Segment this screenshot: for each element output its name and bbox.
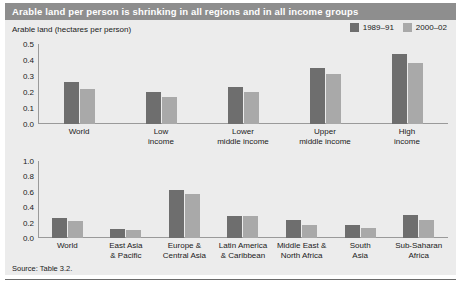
bar-group (202, 44, 284, 124)
legend-label-2000-02: 2000–02 (416, 23, 447, 32)
bar-2000-02 (244, 92, 259, 124)
y-axis-tick: 0.5 (23, 40, 34, 49)
page-title: Arable land per person is shrinking in a… (5, 6, 358, 17)
bar-group (331, 161, 390, 238)
bar-group (38, 161, 97, 238)
bar-2000-02 (162, 97, 177, 124)
legend-swatch-2000-02 (403, 23, 412, 32)
bar-1989-91 (228, 87, 243, 124)
bar-1989-91 (110, 229, 125, 238)
bar-1989-91 (227, 216, 242, 238)
y-axis-tick: 0.2 (23, 88, 34, 97)
bar-1989-91 (392, 54, 407, 124)
bar-2000-02 (185, 194, 200, 238)
bar-1989-91 (146, 92, 161, 124)
bar-group (284, 44, 366, 124)
legend: 1989–91 2000–02 (350, 23, 447, 32)
bar-1989-91 (345, 225, 360, 238)
bar-group (366, 44, 448, 124)
chart-income-groups: 0.00.10.20.30.40.5WorldLowincomeLowermid… (38, 44, 448, 124)
bar-1989-91 (169, 190, 184, 238)
y-axis-tick: 0.8 (23, 172, 34, 181)
bar-2000-02 (126, 230, 141, 238)
y-axis-tick: 0.6 (23, 187, 34, 196)
bar-group (120, 44, 202, 124)
chart-regions: 0.00.20.40.60.81.0WorldEast Asia& Pacifi… (38, 161, 448, 238)
bar-2000-02 (408, 63, 423, 124)
bar-2000-02 (68, 221, 83, 238)
bar-2000-02 (80, 89, 95, 124)
bar-group (97, 161, 156, 238)
y-axis-tick: 1.0 (23, 157, 34, 166)
bar-2000-02 (361, 228, 376, 238)
bar-2000-02 (419, 220, 434, 238)
source-note: Source: Table 3.2. (12, 264, 72, 273)
y-axis-tick: 0.3 (23, 72, 34, 81)
y-axis-tick: 0.4 (23, 56, 34, 65)
legend-item-2000-02: 2000–02 (403, 23, 447, 32)
bar-1989-91 (286, 220, 301, 238)
bar-group (389, 161, 448, 238)
legend-swatch-1989-91 (350, 23, 359, 32)
bar-2000-02 (326, 74, 341, 124)
legend-label-1989-91: 1989–91 (363, 23, 394, 32)
bar-1989-91 (52, 218, 67, 238)
chart-title-banner: Arable land per person is shrinking in a… (5, 3, 456, 20)
y-axis-tick: 0.4 (23, 203, 34, 212)
bar-1989-91 (64, 82, 79, 124)
bar-group (272, 161, 331, 238)
bar-1989-91 (403, 215, 418, 238)
bar-2000-02 (302, 225, 317, 238)
bar-2000-02 (243, 216, 258, 238)
bar-group (214, 161, 273, 238)
figure-container: Arable land per person is shrinking in a… (0, 0, 461, 282)
bar-group (155, 161, 214, 238)
y-axis-title: Arable land (hectares per person) (12, 25, 131, 34)
x-axis-label: Highincome (337, 127, 461, 146)
x-axis-label: Sub-SaharanAfrica (369, 241, 461, 260)
bar-1989-91 (310, 68, 325, 124)
bottom-rule (5, 279, 456, 281)
legend-item-1989-91: 1989–91 (350, 23, 394, 32)
bar-group (38, 44, 120, 124)
y-axis-tick: 0.2 (23, 218, 34, 227)
y-axis-tick: 0.1 (23, 104, 34, 113)
